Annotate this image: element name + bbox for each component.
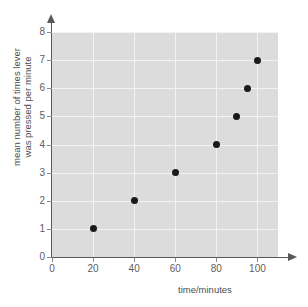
y-axis-title: mean number of times lever was pressed p…	[11, 22, 33, 192]
x-axis-tick	[93, 258, 94, 262]
data-point	[172, 169, 179, 176]
y-axis-tick	[47, 201, 52, 202]
data-point	[131, 197, 138, 204]
plot-area	[52, 32, 278, 257]
gridline-vertical	[93, 32, 94, 257]
y-axis-tick-label: 0	[25, 252, 45, 262]
scatter-chart-figure: mean number of times lever was pressed p…	[0, 0, 308, 307]
gridline-horizontal	[52, 145, 278, 146]
gridline-horizontal	[52, 32, 278, 33]
y-axis-tick	[47, 32, 52, 33]
gridline-horizontal	[52, 173, 278, 174]
y-axis-tick-label: 3	[25, 168, 45, 178]
gridline-horizontal	[52, 116, 278, 117]
x-axis-line	[51, 257, 289, 258]
y-axis-tick-label: 1	[25, 224, 45, 234]
x-axis-title: time/minutes	[178, 284, 232, 295]
data-point	[244, 85, 251, 92]
x-axis-tick	[52, 258, 53, 262]
x-axis-tick	[134, 258, 135, 262]
gridline-vertical	[134, 32, 135, 257]
x-axis-tick	[175, 258, 176, 262]
y-axis-title-line-1: mean number of times lever	[11, 48, 22, 166]
x-axis-tick-label: 0	[37, 264, 67, 274]
y-axis-tick	[47, 229, 52, 230]
x-axis-tick-label: 60	[160, 264, 190, 274]
gridline-horizontal	[52, 201, 278, 202]
x-axis-tick-label: 100	[242, 264, 272, 274]
y-axis-tick-label: 4	[25, 140, 45, 150]
y-axis-tick-label: 5	[25, 111, 45, 121]
x-axis-tick	[257, 258, 258, 262]
x-axis-tick-label: 40	[119, 264, 149, 274]
y-axis-tick-label: 6	[25, 83, 45, 93]
x-axis-tick	[216, 258, 217, 262]
x-axis-tick-label: 80	[201, 264, 231, 274]
y-axis-arrow-icon	[47, 14, 55, 23]
y-axis-tick-label: 7	[25, 55, 45, 65]
data-point	[213, 141, 220, 148]
y-axis-tick	[47, 60, 52, 61]
y-axis-tick-label: 8	[25, 27, 45, 37]
y-axis-line	[51, 22, 52, 258]
y-axis-tick-label: 2	[25, 196, 45, 206]
y-axis-tick	[47, 88, 52, 89]
gridline-vertical	[257, 32, 258, 257]
x-axis-tick-label: 20	[78, 264, 108, 274]
y-axis-tick	[47, 116, 52, 117]
gridline-vertical	[175, 32, 176, 257]
gridline-horizontal	[52, 60, 278, 61]
x-axis-arrow-icon	[288, 253, 297, 261]
y-axis-tick	[47, 173, 52, 174]
y-axis-tick	[47, 145, 52, 146]
data-point	[233, 113, 240, 120]
data-point	[254, 57, 261, 64]
data-point	[90, 225, 97, 232]
gridline-horizontal	[52, 229, 278, 230]
